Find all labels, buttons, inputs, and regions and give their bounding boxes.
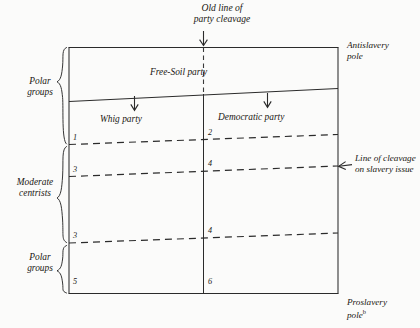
page-title: Old line ofparty cleavage	[174, 2, 270, 25]
democratic-party-arrow	[264, 93, 271, 107]
polar-groups-bottom-label: Polargroups	[16, 252, 64, 274]
moderate-centrists-line-2: centrists	[19, 188, 51, 198]
old-line-of-party-cleavage-arrow	[200, 31, 208, 46]
polar-groups-bottom-line-1: Polar	[29, 252, 50, 262]
polar-groups-top-line-1: Polar	[29, 76, 50, 86]
cell-number-right-2: 2	[208, 128, 212, 137]
line-of-cleavage-arrow	[339, 162, 352, 170]
line-of-cleavage-line-1: Line of cleavage	[355, 153, 416, 163]
antislavery-pole-label: Antislaverypole	[347, 40, 389, 62]
line-of-cleavage-annotation: Line of cleavageon slavery issue	[355, 153, 416, 175]
antislavery-pole-line-2: pole	[347, 51, 363, 61]
cell-number-right-4a: 4	[208, 159, 212, 168]
whig-party-label: Whig party	[100, 114, 142, 125]
cell-number-right-6: 6	[208, 277, 212, 286]
cell-number-left-3b: 3	[73, 231, 77, 240]
polar-groups-bottom-line-2: groups	[27, 263, 53, 273]
line-of-cleavage-line-2: on slavery issue	[355, 164, 414, 174]
moderate-centrists-line-1: Moderate	[17, 177, 53, 187]
page-title-line-2: party cleavage	[194, 13, 251, 24]
antislavery-pole-line-1: Antislavery	[347, 40, 389, 50]
cell-number-left-3a: 3	[73, 165, 77, 174]
page-title-line-1: Old line of	[201, 2, 242, 13]
proslavery-pole-label: Proslaverypoleb	[347, 297, 387, 321]
polar-groups-top-line-2: groups	[27, 87, 53, 97]
proslavery-pole-footnote-marker: b	[363, 308, 366, 315]
cell-number-right-4b: 4	[208, 226, 212, 235]
cell-number-left-1: 1	[73, 133, 77, 142]
proslavery-pole-line-2: pole	[347, 310, 363, 320]
polar-groups-top-label: Polargroups	[16, 76, 64, 98]
democratic-party-label: Democratic party	[218, 112, 284, 123]
proslavery-pole-line-1: Proslavery	[347, 297, 387, 307]
free-soil-party-label: Free-Soil party	[150, 67, 207, 78]
diagram-canvas: Old line ofparty cleavage Antislaverypol…	[0, 0, 420, 328]
cell-number-left-5: 5	[73, 277, 77, 286]
moderate-centrists-label: Moderatecentrists	[6, 177, 64, 199]
